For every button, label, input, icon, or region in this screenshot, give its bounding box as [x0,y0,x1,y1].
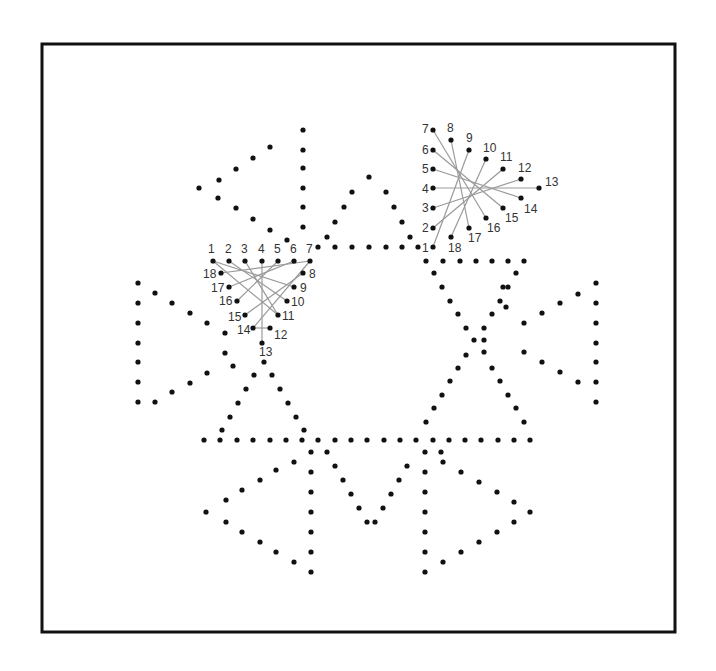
dot-number-label: 15 [228,310,242,324]
numbered-dot [483,156,488,161]
dot [315,244,320,249]
dot [291,559,296,564]
dot [422,529,427,534]
dot-number-label: 1 [422,241,429,255]
dot [527,509,532,514]
dot-number-label: 4 [422,182,429,196]
dot [481,337,486,342]
numbered-dot [300,270,305,275]
dot [431,405,436,410]
dot [332,219,337,224]
dot [341,204,346,209]
numbered-dot [291,284,296,289]
dot [257,539,262,544]
dot [239,529,244,534]
dot-number-label: 14 [524,202,538,216]
string-art-pattern: 123456789101112131415161718 123456789101… [0,0,716,671]
dot-number-label: 6 [422,143,429,157]
dot [505,284,510,289]
dot [204,370,209,375]
dot [407,234,412,239]
numbered-dot [242,258,247,263]
dot [366,174,371,179]
dot [300,204,305,209]
dot-number-label: 14 [237,323,251,337]
dot-number-label: 11 [282,309,295,323]
dot-number-label: 9 [466,131,473,145]
dot [340,477,345,482]
numbered-dot [291,258,296,263]
dot [505,392,510,397]
dot [431,270,436,275]
dot-number-label: 10 [483,141,497,155]
numbered-dot [466,147,471,152]
dot [495,437,500,442]
dot [308,489,313,494]
numbered-dot [275,258,280,263]
dot [364,437,369,442]
dot [593,280,598,285]
dot [383,244,388,249]
dot [250,155,255,160]
numbered-dot [430,147,435,152]
dot [494,489,499,494]
dot [135,359,140,364]
dot [489,258,494,263]
dot [169,389,174,394]
thread-line [451,140,469,228]
dot-number-label: 18 [203,267,217,281]
thread-line [221,261,310,273]
dot [267,227,272,232]
dot [404,463,409,468]
dot [285,400,290,405]
dot [388,491,393,496]
numbered-dot [430,166,435,171]
dot [513,405,518,410]
dot-number-label: 8 [447,121,454,135]
dot [413,437,418,442]
dot-number-label: 12 [518,161,532,175]
dot [308,529,313,534]
dot-number-label: 1 [208,242,215,256]
dot [476,539,481,544]
dot [447,298,452,303]
numbered-dot [218,270,223,275]
numbered-dot [430,185,435,190]
dot [575,291,580,296]
dot [284,237,289,242]
dot [521,320,526,325]
dot [422,569,427,574]
dot [462,437,467,442]
numbered-dot [307,258,312,263]
dot [500,284,505,289]
numbered-dot [500,205,505,210]
numbered-dot [226,284,231,289]
dot [291,459,296,464]
numbered-dot [430,244,435,249]
numbered-dot [466,225,471,230]
numbered-dot [500,166,505,171]
dot-number-label: 15 [505,211,519,225]
dot [187,380,192,385]
dot [439,392,444,397]
dot [539,359,544,364]
numbered-star-example-left: 123456789101112131415161718 [203,242,316,359]
dot [447,378,452,383]
dot [273,467,278,472]
dot [187,310,192,315]
dot [348,491,353,496]
numbered-dot [430,127,435,132]
dot [332,244,337,249]
dot [422,489,427,494]
dot [250,437,255,442]
dot [273,549,278,554]
dot [423,258,428,263]
dot [593,399,598,404]
dot [332,463,337,468]
dot [489,365,494,370]
dot [511,437,516,442]
dot [527,437,532,442]
numbered-dot [518,195,523,200]
dot [135,280,140,285]
dot [308,469,313,474]
